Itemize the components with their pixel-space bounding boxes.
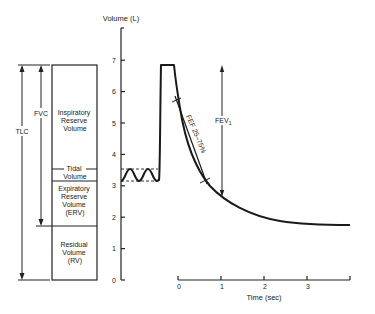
y-axis-title: Volume (L) <box>103 14 140 23</box>
spirometry-diagram: Inspiratory Reserve Volume Tidal Volume … <box>0 0 375 314</box>
tidal-label: Tidal Volume <box>63 165 86 180</box>
svg-text:3: 3 <box>306 283 310 290</box>
svg-text:1: 1 <box>220 283 224 290</box>
svg-text:2: 2 <box>112 214 116 221</box>
fvc-arrowhead-down-icon <box>39 219 44 226</box>
tlc-arrowhead-up-icon <box>20 65 25 72</box>
spirogram-trace <box>121 65 350 225</box>
svg-text:0: 0 <box>112 277 116 284</box>
fev1-arrowhead-up-icon <box>220 65 224 72</box>
y-tick-labels: 0 1 2 3 4 5 6 7 <box>112 57 116 284</box>
tlc-label: TLC <box>15 128 28 135</box>
fvc-label: FVC <box>34 110 48 117</box>
rv-label: Residual Volume (RV) <box>60 241 89 265</box>
tlc-arrowhead-down-icon <box>20 273 25 280</box>
svg-text:3: 3 <box>112 182 116 189</box>
svg-text:4: 4 <box>112 151 116 158</box>
svg-text:0: 0 <box>177 283 181 290</box>
x-tick-labels: 0 1 2 3 <box>177 283 310 290</box>
x-axis-title: Time (sec) <box>246 293 282 302</box>
svg-text:2: 2 <box>263 283 267 290</box>
svg-text:7: 7 <box>112 57 116 64</box>
svg-text:6: 6 <box>112 88 116 95</box>
svg-text:1: 1 <box>112 245 116 252</box>
svg-text:5: 5 <box>112 120 116 127</box>
irv-label: Inspiratory Reserve Volume <box>58 109 93 132</box>
erv-label: Expiratory Reserve Volume (ERV) <box>58 185 91 217</box>
fvc-arrowhead-up-icon <box>39 65 44 72</box>
